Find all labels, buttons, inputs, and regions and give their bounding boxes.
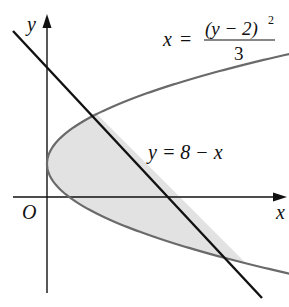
parabola-eq-equals: = — [180, 28, 191, 50]
figure-canvas: y x O x = (y − 2) 2 3 y = 8 − x — [0, 0, 289, 307]
shaded-region — [47, 114, 246, 263]
line-equation: y = 8 − x — [146, 141, 223, 164]
y-axis-arrow-icon — [43, 14, 52, 28]
parabola-eq-denominator: 3 — [234, 43, 244, 64]
parabola-eq-lhs: x — [162, 28, 172, 50]
x-axis-label: x — [275, 201, 285, 223]
parabola-eq-exponent: 2 — [268, 13, 274, 27]
origin-label: O — [22, 201, 36, 223]
y-axis-label: y — [25, 13, 36, 36]
parabola-eq-numerator: (y − 2) — [205, 18, 258, 40]
